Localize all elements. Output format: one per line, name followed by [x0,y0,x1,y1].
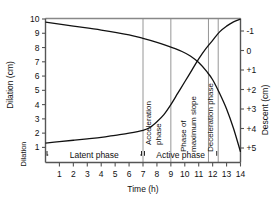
acceleration-phase-label-line-2: phase [154,123,163,145]
left-tick-label-6: 6 [35,71,40,81]
left-tick-label-5: 5 [35,85,40,95]
x-tick-label-5: 5 [113,169,118,179]
left-tick-label-10: 10 [30,14,40,24]
active-phase-label: Active phase [156,150,205,160]
x-tick-label-7: 7 [141,169,146,179]
right-tick-label-+5: +5 [247,143,257,153]
deceleration-phase-label-line-1: Deceleration phase [206,83,215,152]
x-tick-label-8: 8 [155,169,160,179]
left-tick-label-9: 9 [35,28,40,38]
right-tick-label-+1: +1 [247,65,257,75]
x-tick-label-11: 11 [194,169,203,179]
x-tick-label-9: 9 [168,169,173,179]
right-tick-label-+3: +3 [247,104,257,114]
x-tick-label-3: 3 [85,169,90,179]
left-axis-title: Dilation (cm) [5,61,15,109]
right-tick-label-+4: +4 [247,124,257,134]
x-tick-label-14: 14 [236,169,246,179]
phase-of-maximum-slope-label-line-2: maximum slope [189,95,198,152]
left-tick-label-1: 1 [35,142,40,152]
x-tick-label-2: 2 [71,169,76,179]
x-tick-label-1: 1 [57,169,62,179]
latent-phase-label: Latent phase [70,150,119,160]
right-tick-label--1: -1 [247,26,255,36]
left-axis-secondary-title: Dilation [19,141,28,166]
left-tick-label-2: 2 [35,128,40,138]
left-tick-label-4: 4 [35,100,40,110]
acceleration-phase-label-line-1: Acceleration [144,101,153,145]
left-tick-label-3: 3 [35,114,40,124]
x-axis-title: Time (h) [127,184,158,194]
x-tick-label-6: 6 [127,169,132,179]
left-tick-label-7: 7 [35,57,40,67]
right-tick-label-+2: +2 [247,85,257,95]
x-tick-label-13: 13 [222,169,232,179]
chart-canvas: 10987654321 -10+1+2+3+4+5 12345678910111… [0,0,278,202]
friedman-labor-curve-figure: 10987654321 -10+1+2+3+4+5 12345678910111… [0,0,278,202]
left-tick-label-8: 8 [35,43,40,53]
right-axis-title: Descent (cm) [260,85,270,136]
right-tick-label-0: 0 [247,46,252,56]
x-tick-label-12: 12 [208,169,218,179]
phase-of-maximum-slope-label-line-1: Phase of [179,120,188,152]
x-tick-label-4: 4 [99,169,104,179]
x-tick-label-10: 10 [180,169,190,179]
